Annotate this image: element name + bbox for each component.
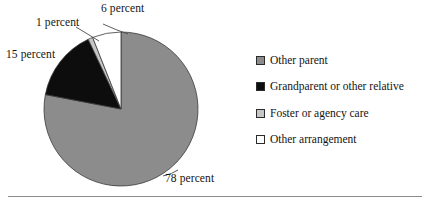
legend-item-label: Foster or agency care: [270, 108, 369, 120]
legend-swatch-icon: [256, 135, 265, 144]
legend-swatch-icon: [256, 56, 265, 65]
data-label-grandparent-or-other-relative: 15 percent: [6, 48, 55, 60]
bottom-divider: [8, 196, 422, 197]
pie-chart: 6 percent 1 percent 15 percent 78 percen…: [0, 0, 430, 203]
legend-item-foster-or-agency-care[interactable]: Foster or agency care: [256, 100, 430, 127]
legend-item-label: Other parent: [270, 55, 328, 67]
data-label-other-parent: 78 percent: [165, 172, 214, 184]
legend-item-other-parent[interactable]: Other parent: [256, 47, 430, 74]
legend-item-other-arrangement[interactable]: Other arrangement: [256, 127, 430, 154]
chart-legend: Other parentGrandparent or other relativ…: [256, 47, 430, 153]
pie-slice-group: [44, 32, 198, 186]
legend-item-grandparent-or-other-relative[interactable]: Grandparent or other relative: [256, 74, 430, 101]
legend-item-label: Other arrangement: [270, 134, 357, 146]
data-label-foster-or-agency-care: 1 percent: [36, 16, 79, 28]
legend-swatch-icon: [256, 109, 265, 118]
legend-swatch-icon: [256, 82, 265, 91]
data-label-other-arrangement: 6 percent: [101, 2, 144, 14]
leader-line-1-percent: [76, 27, 99, 41]
legend-item-label: Grandparent or other relative: [270, 81, 404, 93]
